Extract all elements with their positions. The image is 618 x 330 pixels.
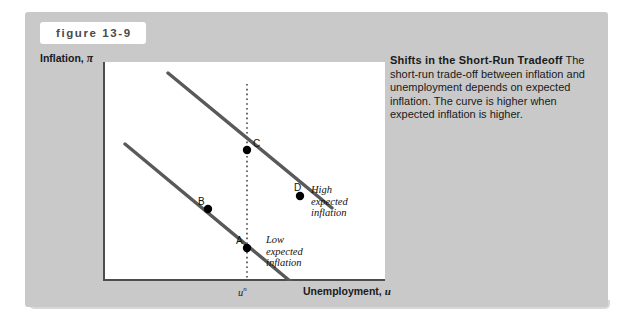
low-note-line-1: Low	[266, 234, 303, 246]
high-note-line-2: expected	[311, 196, 348, 208]
data-point-c	[243, 146, 251, 154]
y-axis-title-text: Inflation,	[40, 52, 87, 64]
pi-symbol: π	[87, 52, 93, 64]
chart-svg	[103, 62, 385, 281]
natural-rate-superscript: n	[243, 285, 247, 293]
high-note-line-1: High	[311, 184, 348, 196]
figure-number-label: figure 13-9	[56, 27, 132, 39]
y-axis-title: Inflation, π	[40, 52, 93, 64]
point-label-b: B	[198, 196, 205, 207]
high-expected-inflation-annotation: High expected inflation	[311, 184, 348, 219]
x-axis-title: Unemployment, u	[303, 285, 391, 297]
data-point-d	[296, 192, 304, 200]
high-note-line-3: inflation	[311, 207, 348, 219]
x-axis-title-text: Unemployment,	[303, 285, 385, 297]
figure-page: figure 13-9 Inflation, π C D B A High	[0, 0, 618, 330]
u-symbol: u	[385, 285, 391, 297]
plot-area: C D B A High expected inflation Low expe…	[103, 62, 385, 281]
point-label-a: A	[236, 235, 243, 246]
natural-rate-label: un	[238, 285, 247, 298]
figure-caption: Shifts in the Short-Run Tradeoff The sho…	[390, 54, 590, 122]
data-point-c2	[243, 244, 251, 252]
point-label-d: D	[294, 182, 301, 193]
figure-number-tab: figure 13-9	[40, 22, 146, 44]
low-note-line-3: inflation	[266, 257, 303, 269]
low-note-line-2: expected	[266, 246, 303, 258]
high-expected-inflation-curve	[168, 73, 332, 208]
point-label-c: C	[253, 138, 260, 149]
low-expected-inflation-annotation: Low expected inflation	[266, 234, 303, 269]
caption-title: Shifts in the Short-Run Tradeoff	[390, 54, 563, 66]
data-point-b	[204, 205, 212, 213]
